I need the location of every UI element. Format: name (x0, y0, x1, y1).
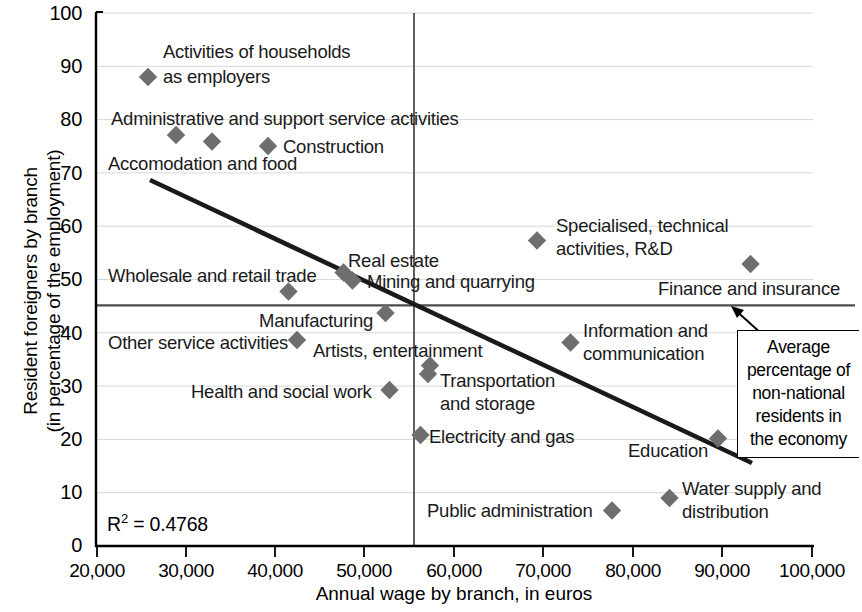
point-label-water-supply-line2: distribution (682, 501, 768, 522)
point-label-information-line2: communication (583, 343, 704, 364)
x-ticks (97, 546, 812, 557)
point-label-electricity-gas: Electricity and gas (429, 426, 574, 447)
point-label-mining-quarrying: Mining and quarrying (367, 271, 535, 292)
point-label-education: Education (628, 440, 708, 461)
annotation-line-4: residents in (738, 405, 859, 428)
point-label-activities-households-line2: as employers (163, 66, 270, 87)
point-label-manufacturing: Manufacturing (259, 310, 373, 331)
marker-information-communication (561, 333, 579, 351)
point-label-real-estate: Real estate (348, 250, 439, 271)
x-tick-100000: 100,000 (762, 560, 862, 582)
point-label-health-social: Health and social work (191, 381, 372, 402)
r-squared-base: R (107, 513, 121, 535)
marker-health-social (380, 381, 398, 399)
r-squared-value: = 0.4768 (128, 513, 208, 535)
marker-public-administration (603, 501, 621, 519)
x-tick-80000: 80,000 (583, 560, 683, 582)
annotation-line-1: Average (738, 336, 859, 359)
marker-other-service (288, 331, 306, 349)
r-squared-exponent: 2 (121, 511, 128, 526)
point-label-specialised-line2: activities, R&D (556, 238, 673, 259)
point-label-administrative-support: Administrative and support service activ… (111, 108, 459, 129)
point-label-finance-insurance: Finance and insurance (658, 278, 840, 299)
x-axis-title: Annual wage by branch, in euros (95, 583, 813, 605)
annotation-line-2: percentage of (738, 359, 859, 382)
point-label-construction: Construction (283, 136, 384, 157)
point-label-public-administration: Public administration (427, 500, 592, 521)
marker-finance-insurance (741, 255, 759, 273)
y-axis-title: Resident foreigners by branch (in percen… (19, 21, 65, 561)
x-tick-40000: 40,000 (225, 560, 325, 582)
x-tick-30000: 30,000 (136, 560, 236, 582)
x-tick-90000: 90,000 (672, 560, 772, 582)
annotation-box: Average percentage of non-national resid… (737, 330, 859, 458)
marker-manufacturing (376, 304, 394, 322)
marker-accomodation-food (203, 132, 221, 150)
point-label-other-service: Other service activities (108, 332, 288, 353)
x-tick-60000: 60,000 (404, 560, 504, 582)
annotation-line-5: the economy (738, 428, 859, 451)
point-label-transportation-line2: and storage (440, 393, 535, 414)
point-label-activities-households-line1: Activities of households (163, 41, 350, 62)
point-label-wholesale-retail: Wholesale and retail trade (108, 265, 316, 286)
marker-specialised-technical (528, 231, 546, 249)
y-axis-title-line1: Resident foreigners by branch (19, 21, 42, 561)
point-label-artists-entertainment: Artists, entertainment (313, 340, 482, 361)
point-label-transportation-line1: Transportation (440, 370, 555, 391)
x-tick-50000: 50,000 (314, 560, 414, 582)
x-tick-20000: 20,000 (47, 560, 147, 582)
x-tick-70000: 70,000 (493, 560, 593, 582)
marker-water-supply (660, 489, 678, 507)
r-squared-label: R2 = 0.4768 (107, 511, 208, 536)
marker-activities-households (139, 68, 157, 86)
annotation-line-3: non-national (738, 382, 859, 405)
point-label-accomodation-food: Accomodation and food (108, 153, 297, 174)
point-label-information-line1: Information and (583, 320, 708, 341)
point-label-water-supply-line1: Water supply and (682, 478, 821, 499)
y-axis-title-line2: (in percentage of the employment) (42, 21, 65, 561)
point-label-specialised-line1: Specialised, technical (556, 215, 728, 236)
